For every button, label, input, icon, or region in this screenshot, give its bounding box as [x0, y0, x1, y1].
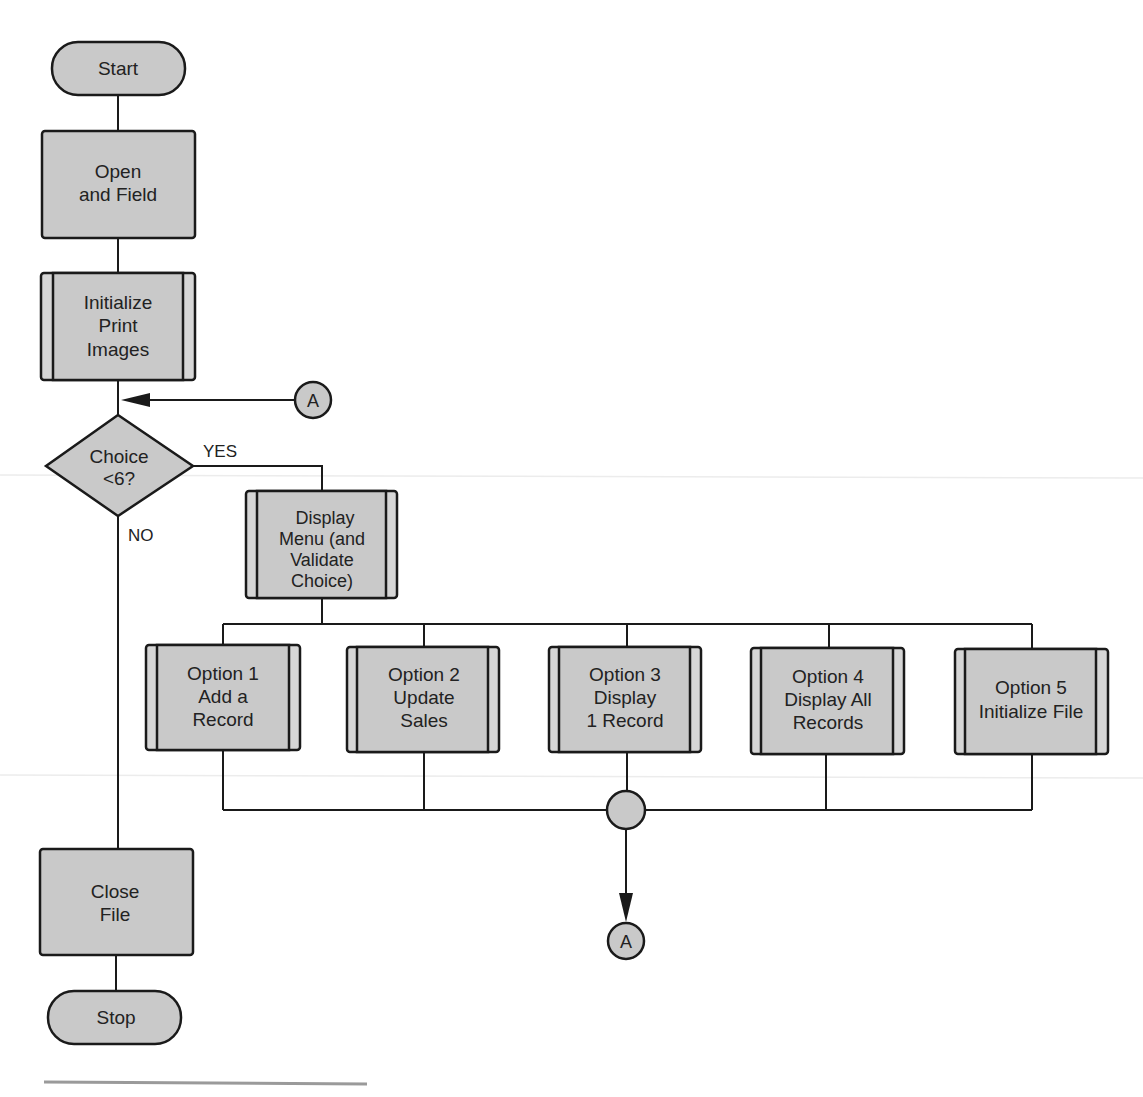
node-label: Update: [393, 687, 454, 708]
node-decision-choice: Choice <6?: [46, 415, 193, 516]
node-label: Option 1: [187, 663, 259, 684]
node-label: Choice: [89, 446, 148, 467]
node-option-2: Option 2 Update Sales: [347, 647, 499, 752]
scan-artifact-line: [0, 775, 1143, 778]
connector-label: A: [307, 391, 319, 411]
node-stop: Stop: [48, 991, 181, 1044]
node-label: Record: [192, 709, 253, 730]
node-option-3: Option 3 Display 1 Record: [549, 647, 701, 752]
node-display-menu: Display Menu (and Validate Choice): [246, 491, 397, 598]
node-label: Initialize: [84, 292, 153, 313]
node-label: Print: [98, 315, 138, 336]
node-label: Option 5: [995, 677, 1067, 698]
node-label: Display All: [784, 689, 872, 710]
node-label: Display: [295, 508, 354, 528]
arrowhead-left-icon: [121, 393, 150, 407]
edge-yes: [193, 466, 322, 491]
node-label: 1 Record: [586, 710, 663, 731]
node-label: Records: [793, 712, 864, 733]
connector-a-out: A: [608, 923, 644, 959]
node-label: Close: [91, 881, 140, 902]
node-label: Choice): [291, 571, 353, 591]
node-label: and Field: [79, 184, 157, 205]
arrowhead-down-icon: [619, 893, 633, 922]
node-label: Option 3: [589, 664, 661, 685]
connector-a-in: A: [295, 382, 331, 418]
node-initialize-print-images: Initialize Print Images: [41, 273, 195, 380]
node-label: Images: [87, 339, 149, 360]
node-close-file: Close File: [40, 849, 193, 955]
node-label: Display: [594, 687, 657, 708]
node-option-5: Option 5 Initialize File: [955, 649, 1108, 754]
node-label: File: [100, 904, 131, 925]
node-option-4: Option 4 Display All Records: [751, 648, 904, 754]
node-label: Option 4: [792, 666, 864, 687]
node-label: Initialize File: [979, 701, 1084, 722]
node-start: Start: [52, 42, 185, 95]
node-label: Start: [98, 58, 139, 79]
node-label: Add a: [198, 686, 248, 707]
node-label: Validate: [290, 550, 354, 570]
edge-label-yes: YES: [203, 442, 237, 461]
flowchart-diagram: Start Open and Field Initialize Print Im…: [0, 0, 1143, 1097]
node-label: Open: [95, 161, 141, 182]
node-label: Sales: [400, 710, 448, 731]
node-label: Option 2: [388, 664, 460, 685]
connector-label: A: [620, 932, 632, 952]
node-label: Stop: [96, 1007, 135, 1028]
page-rule-divider: [44, 1082, 367, 1084]
node-open-and-field: Open and Field: [42, 131, 195, 238]
edge-label-no: NO: [128, 526, 154, 545]
node-label: Menu (and: [279, 529, 365, 549]
node-option-1: Option 1 Add a Record: [146, 645, 300, 750]
node-label: <6?: [103, 468, 135, 489]
merge-junction: [607, 791, 645, 829]
